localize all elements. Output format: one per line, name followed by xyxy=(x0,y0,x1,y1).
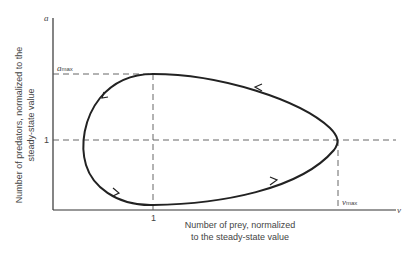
x-axis-symbol: v xyxy=(397,206,401,215)
y-axis-label: Number of predators, normalized to the s… xyxy=(13,30,37,220)
limit-cycle-curve xyxy=(83,74,337,205)
y-tick-one: 1 xyxy=(44,136,49,145)
phase-diagram xyxy=(0,0,412,253)
arrow-icon xyxy=(113,188,119,196)
a-max-label: amax xyxy=(57,64,73,73)
y-axis-symbol: a xyxy=(44,14,49,23)
v-max-label: vmax xyxy=(342,198,357,207)
arrow-icon xyxy=(270,177,277,185)
x-axis-label: Number of prey, normalized to the steady… xyxy=(150,219,330,243)
